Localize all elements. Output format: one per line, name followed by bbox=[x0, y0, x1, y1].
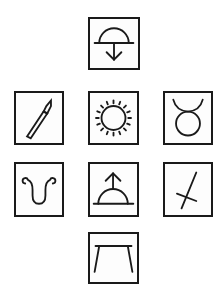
semicircle-arrow-down-icon bbox=[90, 19, 138, 68]
table-icon bbox=[90, 234, 137, 282]
tile-bottom[interactable] bbox=[88, 232, 139, 284]
tile-lower-center[interactable] bbox=[88, 162, 139, 217]
taurus-icon bbox=[165, 93, 211, 143]
semicircle-arrow-up-icon bbox=[90, 164, 137, 215]
tile-middle-left[interactable] bbox=[14, 91, 64, 145]
crossed-line-icon bbox=[165, 164, 211, 215]
tile-center[interactable] bbox=[88, 91, 139, 145]
sun-icon bbox=[90, 93, 137, 143]
paintbrush-icon bbox=[16, 93, 62, 143]
tile-middle-right[interactable] bbox=[163, 91, 213, 145]
tile-lower-left[interactable] bbox=[14, 162, 64, 217]
tile-top[interactable] bbox=[88, 17, 140, 70]
curled-u-icon bbox=[16, 164, 62, 215]
tile-lower-right[interactable] bbox=[163, 162, 213, 217]
